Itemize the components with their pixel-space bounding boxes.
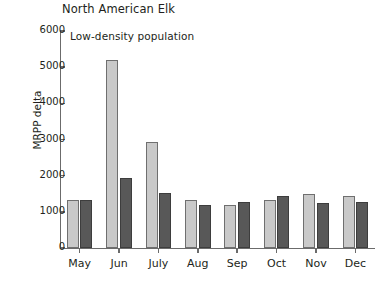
bar — [317, 203, 329, 248]
bar — [224, 205, 236, 248]
bar — [146, 142, 158, 248]
bar — [120, 178, 132, 248]
bar — [199, 205, 211, 248]
bar — [67, 200, 79, 248]
bar — [277, 196, 289, 248]
bar — [343, 196, 355, 248]
plot-area — [0, 0, 383, 289]
bar — [303, 194, 315, 248]
bar — [238, 202, 250, 248]
bar — [106, 60, 118, 248]
chart-figure: North American Elk Low-density populatio… — [0, 0, 383, 289]
bar — [159, 193, 171, 248]
bar — [356, 202, 368, 248]
bar — [264, 200, 276, 248]
bar — [80, 200, 92, 248]
bar — [185, 200, 197, 248]
